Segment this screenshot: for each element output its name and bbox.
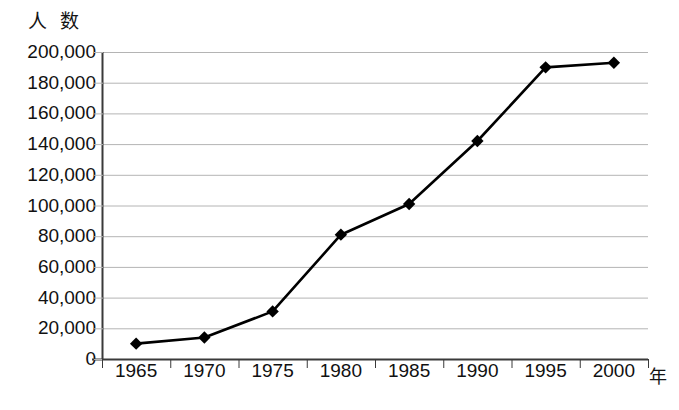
plot-area [0,0,679,410]
line-chart: 人 数 年 200,000180,000160,000140,000120,00… [0,0,679,410]
data-point-marker [130,337,142,349]
data-point-marker [608,57,620,69]
data-point-marker [198,331,210,343]
data-line [136,63,614,344]
